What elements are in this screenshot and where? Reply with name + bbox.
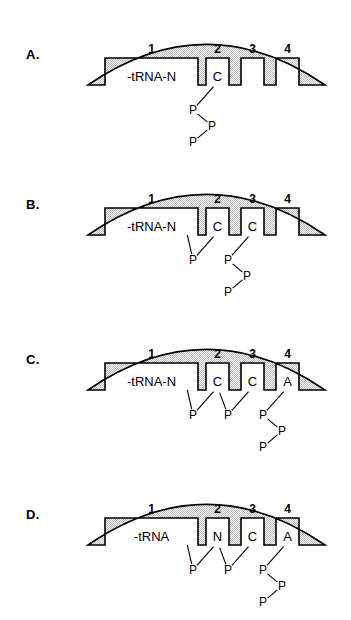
phosphate-beta: P: [278, 424, 286, 438]
bond-line: [232, 547, 249, 566]
site-label-2: C: [213, 69, 222, 84]
site-label-1: -tRNA-N: [127, 219, 176, 234]
phosphate-bridge: P: [189, 408, 197, 422]
site-number-1: 1: [148, 347, 155, 361]
phosphate-beta: P: [243, 269, 251, 283]
phosphate-bridge: P: [189, 563, 197, 577]
phosphate-beta: P: [278, 579, 286, 593]
phosphate-bridge: P: [189, 253, 197, 267]
phosphate-bridge: P: [224, 408, 232, 422]
bond-line: [187, 235, 191, 254]
site-number-2: 2: [214, 502, 221, 516]
bond-line: [198, 130, 208, 138]
bond-line: [232, 237, 249, 256]
panel-c: 1234-tRNA-NCCAPPPPPC.: [0, 305, 351, 455]
bond-line: [187, 390, 191, 409]
panel-diagram: 1234-tRNA-NCCPPPP: [0, 150, 351, 300]
site-number-2: 2: [214, 347, 221, 361]
figure-root: 1234-tRNA-NCPPPA.1234-tRNA-NCCPPPPB.1234…: [0, 0, 351, 620]
site-number-1: 1: [148, 42, 155, 56]
phosphate-gamma: P: [259, 440, 267, 454]
panel-letter: D.: [26, 507, 40, 522]
bond-line: [187, 545, 191, 564]
site-label-2: N: [213, 529, 222, 544]
bond-line: [267, 547, 284, 566]
phosphate-alpha: P: [189, 103, 197, 117]
site-label-3: C: [248, 374, 257, 389]
bond-line: [268, 435, 278, 443]
site-number-4: 4: [284, 347, 291, 361]
site-label-1: -tRNA: [134, 529, 170, 544]
site-number-3: 3: [249, 502, 256, 516]
panel-letter: C.: [26, 352, 40, 367]
panel-letter: B.: [26, 197, 40, 212]
panel-d: 1234-tRNANCAPPPPPD.: [0, 460, 351, 610]
site-number-4: 4: [284, 502, 291, 516]
site-number-4: 4: [284, 42, 291, 56]
bond-line: [220, 393, 226, 410]
bond-line: [197, 392, 214, 411]
site-number-1: 1: [148, 502, 155, 516]
bond-line: [268, 574, 278, 582]
panel-a: 1234-tRNA-NCPPPA.: [0, 0, 351, 150]
phosphate-gamma: P: [224, 285, 232, 299]
site-number-2: 2: [214, 192, 221, 206]
site-label-2: C: [213, 219, 222, 234]
site-number-3: 3: [249, 192, 256, 206]
site-label-3: C: [248, 529, 257, 544]
phosphate-beta: P: [208, 119, 216, 133]
site-number-4: 4: [284, 192, 291, 206]
bond-line: [268, 590, 278, 598]
bond-line: [232, 392, 249, 411]
panel-b: 1234-tRNA-NCCPPPPB.: [0, 150, 351, 300]
site-number-2: 2: [214, 42, 221, 56]
site-label-1: -tRNA-N: [127, 69, 176, 84]
panel-letter: A.: [26, 47, 40, 62]
site-label-4: A: [283, 374, 292, 389]
bond-line: [198, 114, 208, 122]
bond-line: [233, 264, 243, 272]
bond-line: [267, 392, 284, 411]
phosphate-alpha: P: [259, 563, 267, 577]
bond-line: [268, 419, 278, 427]
bond-line: [197, 87, 214, 106]
panel-diagram: 1234-tRNA-NCPPP: [0, 0, 351, 150]
phosphate-alpha: P: [259, 408, 267, 422]
bond-line: [197, 547, 214, 566]
bond-line: [220, 548, 226, 565]
site-number-3: 3: [249, 347, 256, 361]
phosphate-gamma: P: [189, 135, 197, 149]
site-number-1: 1: [148, 192, 155, 206]
bond-line: [233, 280, 243, 288]
site-number-3: 3: [249, 42, 256, 56]
bond-line: [197, 237, 214, 256]
phosphate-gamma: P: [259, 595, 267, 609]
site-label-1: -tRNA-N: [127, 374, 176, 389]
site-label-3: C: [248, 219, 257, 234]
site-label-4: A: [283, 529, 292, 544]
panel-diagram: 1234-tRNA-NCCAPPPPP: [0, 305, 351, 455]
phosphate-bridge: P: [224, 563, 232, 577]
panel-diagram: 1234-tRNANCAPPPPP: [0, 460, 351, 610]
phosphate-alpha: P: [224, 253, 232, 267]
site-label-2: C: [213, 374, 222, 389]
